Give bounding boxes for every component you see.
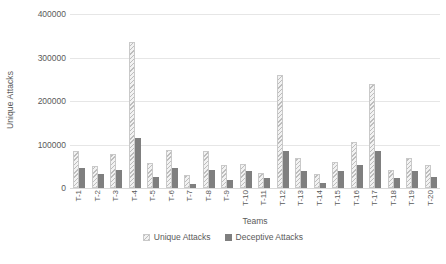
bar-group bbox=[366, 14, 385, 188]
bar-deceptive-attacks bbox=[153, 177, 159, 188]
x-axis-tick: T-8 bbox=[200, 189, 219, 217]
x-axis-tick-label: T-3 bbox=[112, 190, 120, 202]
x-axis-tick: T-3 bbox=[107, 189, 126, 217]
x-axis-tick: T-1 bbox=[70, 189, 89, 217]
y-axis-tick-label: 0 bbox=[61, 184, 66, 193]
bar-group bbox=[255, 14, 274, 188]
legend-label: Unique Attacks bbox=[154, 232, 211, 242]
bar-deceptive-attacks bbox=[190, 184, 196, 188]
x-axis-tick: T-12 bbox=[274, 189, 293, 217]
y-axis-title: Unique Attacks bbox=[2, 0, 18, 200]
bar-deceptive-attacks bbox=[431, 177, 437, 188]
bar-group bbox=[237, 14, 256, 188]
bar-deceptive-attacks bbox=[283, 151, 289, 188]
x-axis-tick: T-9 bbox=[218, 189, 237, 217]
bar-group bbox=[107, 14, 126, 188]
y-axis-tick-labels: 0100000200000300000400000 bbox=[18, 0, 70, 200]
plot-area bbox=[70, 14, 440, 188]
bar-group bbox=[89, 14, 108, 188]
x-axis-tick-label: T-10 bbox=[242, 190, 250, 206]
x-axis-tick-label: T-17 bbox=[371, 190, 379, 206]
x-axis-tick: T-16 bbox=[348, 189, 367, 217]
x-axis-tick: T-11 bbox=[255, 189, 274, 217]
x-axis-tick-label: T-5 bbox=[149, 190, 157, 202]
bar-deceptive-attacks bbox=[412, 171, 418, 188]
bar-group bbox=[292, 14, 311, 188]
x-axis-tick-label: T-1 bbox=[75, 190, 83, 202]
x-axis-tick-label: T-20 bbox=[427, 190, 435, 206]
bar-deceptive-attacks bbox=[135, 138, 141, 188]
legend-label: Deceptive Attacks bbox=[236, 232, 304, 242]
x-axis-tick-label: T-19 bbox=[408, 190, 416, 206]
x-axis-tick-label: T-7 bbox=[186, 190, 194, 202]
bar-group bbox=[422, 14, 441, 188]
x-axis-tick-label: T-6 bbox=[168, 190, 176, 202]
x-axis-tick-label: T-12 bbox=[279, 190, 287, 206]
legend-item: Deceptive Attacks bbox=[225, 232, 304, 242]
bar-deceptive-attacks bbox=[320, 183, 326, 188]
bar-deceptive-attacks bbox=[246, 171, 252, 188]
x-axis-tick-label: T-18 bbox=[390, 190, 398, 206]
x-axis-title: Teams bbox=[70, 216, 440, 226]
bar-groups bbox=[70, 14, 440, 188]
y-axis-tick-label: 300000 bbox=[38, 53, 66, 62]
bar-group bbox=[70, 14, 89, 188]
bar-group bbox=[200, 14, 219, 188]
bar-group bbox=[403, 14, 422, 188]
x-axis-tick: T-20 bbox=[422, 189, 441, 217]
x-axis-tick: T-5 bbox=[144, 189, 163, 217]
x-axis-tick: T-7 bbox=[181, 189, 200, 217]
legend-swatch-unique-attacks bbox=[143, 234, 150, 241]
bar-group bbox=[144, 14, 163, 188]
bar-group bbox=[274, 14, 293, 188]
x-axis-tick: T-2 bbox=[89, 189, 108, 217]
bar-deceptive-attacks bbox=[172, 168, 178, 188]
x-axis-tick-label: T-4 bbox=[131, 190, 139, 202]
chart-legend: Unique AttacksDeceptive Attacks bbox=[0, 232, 446, 242]
x-axis-tick: T-17 bbox=[366, 189, 385, 217]
x-axis-tick-label: T-13 bbox=[297, 190, 305, 206]
x-axis-tick-label: T-2 bbox=[94, 190, 102, 202]
y-axis-tick-label: 100000 bbox=[38, 140, 66, 149]
bar-deceptive-attacks bbox=[338, 171, 344, 188]
bar-group bbox=[385, 14, 404, 188]
x-axis-tick-label: T-11 bbox=[260, 190, 268, 205]
bar-group bbox=[311, 14, 330, 188]
bar-group bbox=[181, 14, 200, 188]
x-axis-tick-label: T-15 bbox=[334, 190, 342, 206]
bar-deceptive-attacks bbox=[227, 180, 233, 188]
y-axis-tick-label: 200000 bbox=[38, 97, 66, 106]
bar-deceptive-attacks bbox=[375, 151, 381, 188]
bar-deceptive-attacks bbox=[301, 171, 307, 188]
bar-group bbox=[348, 14, 367, 188]
legend-item: Unique Attacks bbox=[143, 232, 211, 242]
x-axis-tick: T-19 bbox=[403, 189, 422, 217]
x-axis-tick: T-15 bbox=[329, 189, 348, 217]
x-axis-tick: T-10 bbox=[237, 189, 256, 217]
x-axis-tick-label: T-16 bbox=[353, 190, 361, 206]
bar-deceptive-attacks bbox=[79, 168, 85, 188]
bar-deceptive-attacks bbox=[357, 165, 363, 188]
bar-deceptive-attacks bbox=[209, 170, 215, 188]
bar-deceptive-attacks bbox=[394, 178, 400, 188]
x-axis-tick: T-18 bbox=[385, 189, 404, 217]
bar-group bbox=[218, 14, 237, 188]
x-axis-tick: T-13 bbox=[292, 189, 311, 217]
bar-group bbox=[163, 14, 182, 188]
bar-deceptive-attacks bbox=[98, 174, 104, 188]
x-axis-tick: T-4 bbox=[126, 189, 145, 217]
x-axis-tick-label: T-8 bbox=[205, 190, 213, 202]
y-axis-tick-label: 400000 bbox=[38, 10, 66, 19]
bar-group bbox=[126, 14, 145, 188]
y-axis-title-text: Unique Attacks bbox=[5, 71, 15, 129]
x-axis-tick-label: T-14 bbox=[316, 190, 324, 206]
bar-deceptive-attacks bbox=[116, 170, 122, 188]
bar-deceptive-attacks bbox=[264, 178, 270, 188]
x-axis-tick-label: T-9 bbox=[223, 190, 231, 202]
legend-swatch-deceptive-attacks bbox=[225, 234, 232, 241]
bar-chart: Unique Attacks 0100000200000300000400000… bbox=[0, 0, 446, 264]
x-axis-tick-labels: T-1T-2T-3T-4T-5T-6T-7T-8T-9T-10T-11T-12T… bbox=[70, 189, 440, 217]
bar-group bbox=[329, 14, 348, 188]
x-axis-tick: T-6 bbox=[163, 189, 182, 217]
x-axis-tick: T-14 bbox=[311, 189, 330, 217]
